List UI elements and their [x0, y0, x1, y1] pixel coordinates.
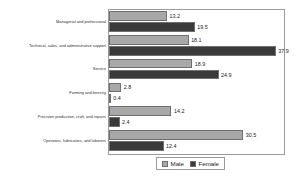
bar-rect-male — [109, 106, 171, 116]
bar-value-male: 14.2 — [171, 108, 184, 114]
bar-rect-female — [109, 70, 219, 80]
bar-female: 19.5 — [109, 22, 285, 32]
bar-group: 2.8 0.4 — [109, 81, 285, 105]
category-label: Service — [0, 67, 106, 71]
chart-rows: Managerial and professional 13.2 19.5 Te… — [0, 10, 296, 153]
category-label: Precision production, craft, and repairs — [0, 115, 106, 119]
bar-group: 14.2 2.4 — [109, 105, 285, 129]
bar-rect-male — [109, 59, 192, 69]
chart-row: Managerial and professional 13.2 19.5 — [0, 10, 296, 34]
bar-value-female: 0.4 — [111, 95, 121, 101]
bar-male: 18.9 — [109, 59, 285, 69]
legend-item-female[interactable]: Female — [190, 160, 219, 167]
legend-swatch-icon-female — [190, 161, 196, 167]
bar-value-female: 24.9 — [219, 72, 232, 78]
bar-female: 24.9 — [109, 70, 285, 80]
chart-row: Farming and forestry 2.8 0.4 — [0, 81, 296, 105]
bar-female: 37.9 — [109, 46, 285, 56]
bar-value-female: 12.4 — [164, 143, 177, 149]
legend-label-male: Male — [171, 160, 184, 167]
bar-male: 13.2 — [109, 11, 285, 21]
chart-row: Operators, fabricators, and laborers 30.… — [0, 129, 296, 153]
bar-male: 14.2 — [109, 106, 285, 116]
bar-chart: Managerial and professional 13.2 19.5 Te… — [0, 0, 296, 182]
bar-female: 0.4 — [109, 94, 285, 104]
chart-row: Technical, sales, and administrative sup… — [0, 34, 296, 58]
category-label: Operators, fabricators, and laborers — [0, 139, 106, 143]
bar-value-male: 18.1 — [189, 37, 202, 43]
bar-rect-female — [109, 22, 195, 32]
bar-female: 2.4 — [109, 117, 285, 127]
bar-value-female: 19.5 — [195, 24, 208, 30]
bar-male: 30.5 — [109, 130, 285, 140]
bar-rect-female — [109, 117, 120, 127]
bar-rect-female — [109, 141, 164, 151]
legend-item-male[interactable]: Male — [162, 160, 184, 167]
bar-group: 18.1 37.9 — [109, 34, 285, 58]
bar-value-female: 37.9 — [276, 48, 289, 54]
bar-group: 13.2 19.5 — [109, 10, 285, 34]
bar-value-female: 2.4 — [120, 119, 130, 125]
bar-value-male: 18.9 — [192, 61, 205, 67]
chart-row: Service 18.9 24.9 — [0, 58, 296, 82]
legend-swatch-icon-male — [162, 161, 168, 167]
bar-rect-male — [109, 130, 243, 140]
bar-male: 2.8 — [109, 83, 285, 93]
bar-male: 18.1 — [109, 35, 285, 45]
legend-label-female: Female — [198, 160, 219, 167]
bar-rect-male — [109, 11, 167, 21]
bar-value-male: 2.8 — [121, 84, 131, 90]
bar-group: 30.5 12.4 — [109, 129, 285, 153]
chart-legend: Male Female — [156, 157, 225, 170]
bar-value-male: 30.5 — [243, 132, 256, 138]
bar-value-male: 13.2 — [167, 13, 180, 19]
bar-female: 12.4 — [109, 141, 285, 151]
category-label: Farming and forestry — [0, 91, 106, 95]
bar-group: 18.9 24.9 — [109, 58, 285, 82]
bar-rect-female — [109, 46, 276, 56]
category-label: Technical, sales, and administrative sup… — [0, 43, 106, 47]
bar-rect-male — [109, 83, 121, 93]
bar-rect-male — [109, 35, 189, 45]
chart-row: Precision production, craft, and repairs… — [0, 105, 296, 129]
category-label: Managerial and professional — [0, 20, 106, 24]
